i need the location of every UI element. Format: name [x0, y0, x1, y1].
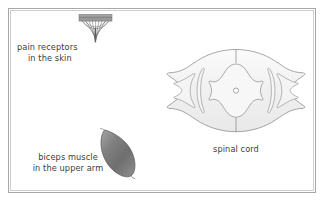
label-pain-receptors-line2: in the skin	[17, 53, 113, 64]
central-canal-icon	[233, 88, 238, 93]
label-biceps-line2: in the upper arm	[33, 163, 104, 173]
label-pain-receptors: pain receptorsin the skin	[17, 42, 113, 63]
label-pain-receptors-line1: pain receptors	[17, 42, 78, 52]
label-spinal-cord: spinal cord	[196, 144, 276, 155]
diagram-figure: pain receptorsin the skin biceps musclei…	[0, 0, 325, 202]
spinal-cord-outline	[167, 50, 305, 132]
label-biceps-line1: biceps muscle	[38, 152, 98, 162]
label-biceps-muscle: biceps musclein the upper arm	[22, 152, 114, 173]
